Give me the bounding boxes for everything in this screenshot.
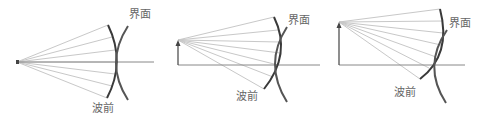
rays [339, 9, 443, 79]
wavefront-label: 波前 [236, 89, 258, 103]
panel-1: 界面 波前 [16, 8, 154, 115]
wavefront-label: 波前 [92, 101, 114, 115]
wavefront-diagram: 界面 波前 界面 波前 [0, 0, 480, 118]
interface-arc [434, 30, 447, 103]
panel-3: 界面 波前 [337, 9, 472, 103]
interface-label: 界面 [288, 14, 310, 27]
rays [178, 17, 280, 89]
panel-2: 界面 波前 [176, 14, 321, 103]
interface-label: 界面 [129, 8, 151, 21]
interface-arc [116, 26, 128, 100]
wavefront-label: 波前 [394, 85, 416, 99]
interface-label: 界面 [449, 17, 471, 30]
point-source [16, 60, 19, 64]
